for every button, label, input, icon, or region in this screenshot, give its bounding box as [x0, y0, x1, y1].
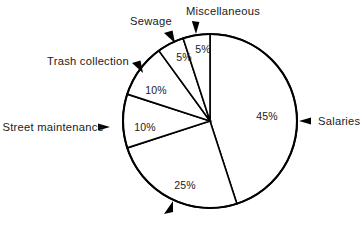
slice-value-label: 45%: [256, 110, 278, 122]
callout-arrow-icon: [192, 21, 200, 34]
callout-arrow-icon: [164, 201, 173, 214]
callout-label-sewage: Sewage: [130, 15, 172, 27]
slice-value-label: 5%: [176, 51, 192, 63]
slice-value-label: 10%: [145, 84, 167, 96]
slice-value-label: 25%: [174, 179, 196, 191]
callout-arrow-icon: [164, 31, 175, 44]
callout-label-miscellaneous: Miscellaneous: [186, 5, 260, 17]
callout-arrow-icon: [299, 118, 311, 125]
callout-label-trash-collection: Trash collection: [47, 55, 129, 67]
pie-chart-svg: 45%25%10%10%5%5% SalariesStreet maintena…: [0, 0, 361, 227]
slice-value-label: 5%: [195, 43, 211, 55]
callout-label-street-maintenance: Street maintenance: [2, 121, 104, 133]
callout-label-salaries: Salaries: [318, 115, 361, 127]
slice-value-label: 10%: [134, 121, 156, 133]
pie-chart-figure: 45%25%10%10%5%5% SalariesStreet maintena…: [0, 0, 361, 227]
